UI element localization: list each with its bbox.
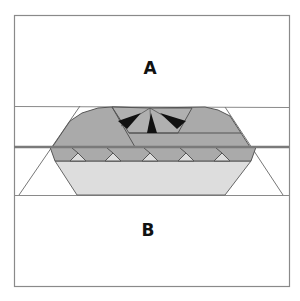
label-a: A (143, 58, 157, 78)
diagram: A B (0, 0, 300, 301)
label-b: B (142, 220, 155, 240)
light-gray-trapezoid (55, 161, 251, 195)
